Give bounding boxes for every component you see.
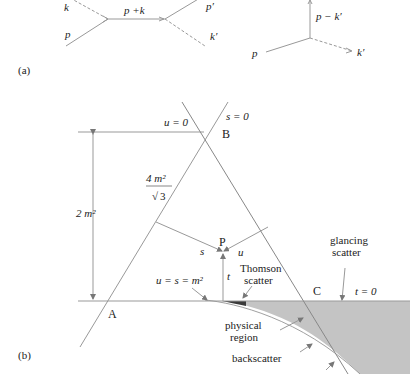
glancing-label-1: glancing	[330, 234, 368, 246]
label-u: u	[238, 246, 244, 258]
vertex-a: A	[108, 307, 117, 321]
feynman-u-channel: p − k′ p k′	[251, 0, 365, 59]
u-outgoing-photon	[310, 38, 352, 51]
thomson-label-2: scatter	[244, 274, 273, 286]
u-incoming-electron	[266, 38, 310, 52]
label-k: k	[64, 1, 70, 13]
physical-label-1: physical	[225, 319, 262, 331]
backscatter-label: backscatter	[232, 352, 282, 364]
incoming-electron-line	[66, 19, 108, 46]
side-numerator: 4 m²	[146, 172, 166, 184]
vertex-b: B	[222, 127, 230, 141]
physical-label-2: region	[230, 331, 259, 343]
panel-b-label: (b)	[18, 349, 31, 362]
outgoing-photon-line	[165, 19, 205, 46]
feynman-s-channel: k p p +k p′ k′	[64, 0, 218, 46]
label-u-k-prime: k′	[357, 46, 365, 58]
outgoing-electron-line	[165, 0, 200, 19]
side-denominator: 3	[160, 190, 166, 202]
label-s: s	[200, 245, 204, 257]
label-u0: u = 0	[164, 116, 188, 128]
incoming-photon-line	[70, 0, 108, 19]
vertex-c: C	[313, 284, 321, 298]
label-p-minus-k-prime: p − k′	[315, 10, 342, 22]
glancing-label-2: scatter	[332, 246, 361, 258]
label-t0: t = 0	[355, 285, 377, 297]
panel-a-label: (a)	[18, 64, 31, 77]
point-p: P	[219, 235, 226, 249]
distance-s	[156, 222, 222, 251]
label-p-plus-k: p +k	[123, 4, 146, 16]
thomson-label-1: Thomson	[240, 262, 282, 274]
label-t: t	[227, 270, 231, 282]
distance-u	[224, 227, 268, 251]
compton-diagram: k p p +k p′ k′ p − k′ p k′ (a)	[0, 0, 410, 374]
mandelstam-plane: u = 0 s = 0 B 4 m² √ 3 2 m² P s u t u = …	[18, 102, 410, 374]
label-s0: s = 0	[226, 110, 249, 122]
line-s0	[182, 102, 348, 374]
label-u-p: p	[251, 47, 258, 59]
line-u0	[80, 102, 228, 347]
sqrt-symbol: √	[152, 190, 159, 202]
label-p-prime: p′	[205, 0, 215, 12]
label-p: p	[64, 28, 71, 40]
label-k-prime: k′	[210, 30, 218, 42]
height-label: 2 m²	[76, 207, 96, 219]
threshold-label: u = s = m²	[156, 274, 204, 286]
